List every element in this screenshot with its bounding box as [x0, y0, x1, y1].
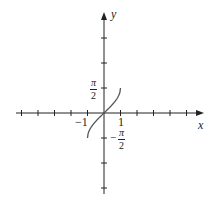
minus-sign: −: [110, 132, 116, 143]
y-axis-arrow-icon: [101, 12, 107, 20]
y-axis-label: y: [111, 8, 116, 20]
arcsin-graph: y x −1 1 π 2 − π 2: [0, 0, 218, 203]
x-tick-label-neg-one: −1: [75, 116, 88, 128]
y-tick-label-pi-over-2: π 2: [90, 78, 97, 101]
x-axis-arrow-icon: [196, 110, 204, 116]
y-tick-label-neg-pi-over-2: π 2: [118, 128, 125, 151]
plot-area: [0, 0, 218, 203]
x-axis-label: x: [198, 119, 203, 131]
